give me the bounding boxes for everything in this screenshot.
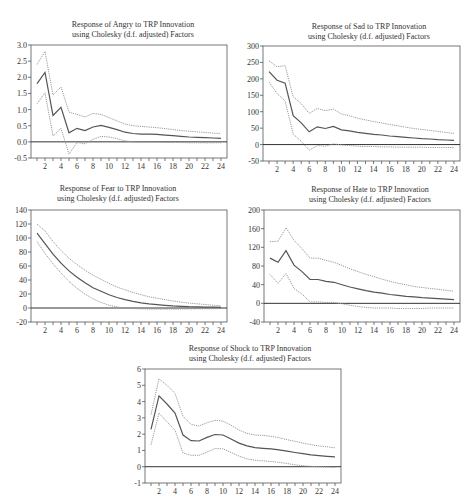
plot-area: -1012345624681012141618202224 <box>0 0 476 504</box>
plot-frame <box>145 369 341 483</box>
x-tick-label: 18 <box>283 487 291 496</box>
y-tick-label: 0 <box>137 463 141 472</box>
x-tick-label: 4 <box>173 487 177 496</box>
y-tick-label: -1 <box>134 479 141 488</box>
x-tick-label: 24 <box>331 487 339 496</box>
x-tick-label: 10 <box>219 487 227 496</box>
x-tick-label: 20 <box>299 487 307 496</box>
y-tick-label: 6 <box>137 365 141 374</box>
y-tick-label: 1 <box>137 446 141 455</box>
y-tick-label: 2 <box>137 430 141 439</box>
x-tick-label: 14 <box>251 487 259 496</box>
x-tick-label: 2 <box>157 487 161 496</box>
y-tick-label: 3 <box>137 414 141 423</box>
x-tick-label: 22 <box>315 487 323 496</box>
y-tick-label: 4 <box>137 398 141 407</box>
confidence-band-line <box>151 379 335 448</box>
x-tick-label: 16 <box>267 487 275 496</box>
x-tick-label: 8 <box>205 487 209 496</box>
y-tick-label: 5 <box>137 381 141 390</box>
x-tick-label: 12 <box>235 487 243 496</box>
x-tick-label: 6 <box>189 487 193 496</box>
